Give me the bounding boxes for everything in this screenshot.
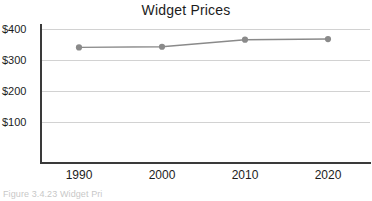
y-tick-label-100: $100 [2,116,38,128]
y-tick-label-300: $300 [2,54,38,66]
y-tick-label-400: $400 [2,23,38,35]
gridline-400 [41,29,370,30]
figure-container: Widget Prices $400 $300 $200 $100 1990 2… [0,0,372,201]
chart-title: Widget Prices [0,2,372,18]
gridline-200 [41,91,370,92]
gridline-300 [41,60,370,61]
gridline-100 [41,122,370,123]
x-tick-label-2010: 2010 [215,168,275,182]
x-tick-label-2000: 2000 [132,168,192,182]
y-tick-label-200: $200 [2,85,38,97]
figure-caption: Figure 3.4.23 Widget Pri [3,189,102,199]
x-tick-label-1990: 1990 [49,168,109,182]
y-axis-line [40,24,42,164]
plot-area [41,29,370,163]
x-tick-label-2020: 2020 [298,168,358,182]
x-axis-line [40,162,371,164]
